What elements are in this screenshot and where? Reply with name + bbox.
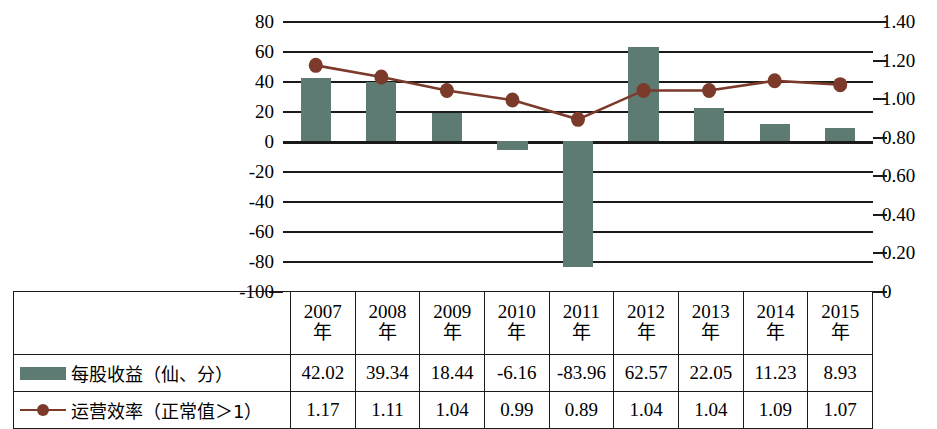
cell-efficiency-2008年: 1.11 <box>355 392 420 429</box>
right-axis-tick-label: 0.60 <box>882 166 937 185</box>
left-axis-tick-label: -80 <box>184 252 274 271</box>
year-header-2011年: 2011年 <box>549 292 614 355</box>
line-marker-2009年 <box>440 83 454 98</box>
left-axis-tick-label: 60 <box>184 42 274 61</box>
axis-tick-stub <box>873 291 887 293</box>
year-header-2010年: 2010年 <box>484 292 549 355</box>
cell-eps-2008年: 39.34 <box>355 355 420 392</box>
chart-plot-region: 806040200-20-40-60-80-100 1.401.201.000.… <box>0 0 937 292</box>
axis-tick-stub <box>873 98 887 100</box>
plot-area: 806040200-20-40-60-80-100 1.401.201.000.… <box>283 21 873 291</box>
cell-eps-2007年: 42.02 <box>291 355 356 392</box>
left-axis-tick-label: -20 <box>184 162 274 181</box>
axis-tick-stub <box>873 214 887 216</box>
year-header-2015年: 2015年 <box>808 292 873 355</box>
axis-tick-stub <box>873 60 887 62</box>
left-axis-tick-label: -60 <box>184 222 274 241</box>
right-axis-tick-label: 1.20 <box>882 50 937 69</box>
line-marker-2014年 <box>768 73 782 88</box>
right-axis-tick-label: 1.40 <box>882 12 937 31</box>
cell-eps-2012年: 62.57 <box>614 355 679 392</box>
legend-cell-efficiency: 运营效率（正常值＞1） <box>14 392 291 429</box>
cell-efficiency-2010年: 0.99 <box>484 392 549 429</box>
cell-eps-2009年: 18.44 <box>420 355 485 392</box>
cell-efficiency-2007年: 1.17 <box>291 392 356 429</box>
year-header-2009年: 2009年 <box>420 292 485 355</box>
line-marker-2008年 <box>374 69 388 84</box>
year-header-2013年: 2013年 <box>678 292 743 355</box>
year-header-2007年: 2007年 <box>291 292 356 355</box>
data-table: 2007年2008年2009年2010年2011年2012年2013年2014年… <box>13 291 873 429</box>
axis-tick-stub <box>873 252 887 254</box>
left-axis-tick-label: 0 <box>184 132 274 151</box>
cell-efficiency-2009年: 1.04 <box>420 392 485 429</box>
line-legend-swatch-icon <box>20 404 66 417</box>
right-axis-tick-label: 0.80 <box>882 127 937 146</box>
cell-efficiency-2011年: 0.89 <box>549 392 614 429</box>
year-header-2008年: 2008年 <box>355 292 420 355</box>
cell-efficiency-2014年: 1.09 <box>743 392 808 429</box>
table-row-eps: 每股收益（仙、分） 42.0239.3418.44-6.16-83.9662.5… <box>14 355 873 392</box>
line-marker-2015年 <box>833 77 847 92</box>
right-axis-tick-label: 1.00 <box>882 89 937 108</box>
cell-eps-2015年: 8.93 <box>808 355 873 392</box>
axis-tick-stub <box>873 21 887 23</box>
left-axis-tick-label: -40 <box>184 192 274 211</box>
line-marker-2012年 <box>637 83 651 98</box>
line-series <box>283 21 873 291</box>
cell-eps-2014年: 11.23 <box>743 355 808 392</box>
left-axis-tick-label: 40 <box>184 72 274 91</box>
right-axis-tick-label: 0.20 <box>882 243 937 262</box>
cell-eps-2013年: 22.05 <box>678 355 743 392</box>
legend-cell-eps: 每股收益（仙、分） <box>14 355 291 392</box>
line-marker-2010年 <box>505 93 519 108</box>
cell-efficiency-2013年: 1.04 <box>678 392 743 429</box>
line-marker-2007年 <box>309 58 323 73</box>
axis-tick-stub <box>873 137 887 139</box>
legend-label-efficiency: 运营效率（正常值＞1） <box>71 397 262 423</box>
year-header-2014年: 2014年 <box>743 292 808 355</box>
right-axis-tick-label: 0.40 <box>882 204 937 223</box>
line-marker-2011年 <box>571 112 585 127</box>
line-marker-2013年 <box>702 83 716 98</box>
year-header-2012年: 2012年 <box>614 292 679 355</box>
table-row-efficiency: 运营效率（正常值＞1） 1.171.111.040.990.891.041.04… <box>14 392 873 429</box>
cell-eps-2010年: -6.16 <box>484 355 549 392</box>
left-axis-tick-label: 80 <box>184 12 274 31</box>
cell-efficiency-2015年: 1.07 <box>808 392 873 429</box>
axis-tick-stub <box>873 175 887 177</box>
efficiency-line-path <box>316 65 840 119</box>
right-axis-tick-label: 0 <box>882 282 937 301</box>
table-header-row: 2007年2008年2009年2010年2011年2012年2013年2014年… <box>14 292 873 355</box>
legend-label-eps: 每股收益（仙、分） <box>71 360 233 386</box>
left-axis-tick-label: 20 <box>184 102 274 121</box>
table-corner-cell <box>14 292 291 355</box>
cell-efficiency-2012年: 1.04 <box>614 392 679 429</box>
cell-eps-2011年: -83.96 <box>549 355 614 392</box>
bar-legend-swatch-icon <box>20 367 66 380</box>
